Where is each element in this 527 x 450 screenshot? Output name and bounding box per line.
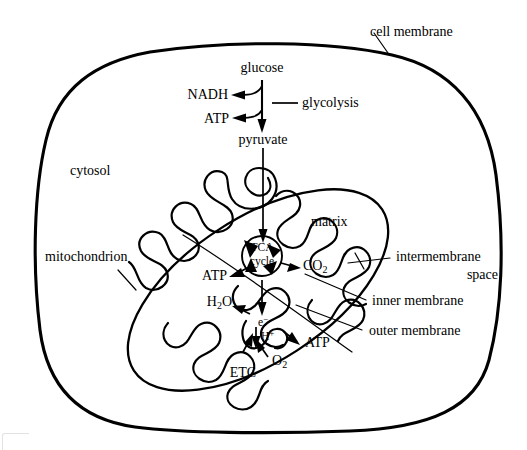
label-outer-membrane: outer membrane (369, 323, 460, 338)
label-cell-membrane: cell membrane (370, 24, 453, 39)
glycolysis-main-arrowhead (258, 119, 267, 133)
label-tca-line1: TCA (251, 241, 275, 253)
mitochondrion-outer-membrane (95, 149, 422, 431)
o2-subscript: 2 (282, 359, 287, 370)
diagram-canvas: cell membrane cytosol mitochondrion matr… (0, 0, 527, 450)
corner-scan-artifact (2, 433, 29, 450)
proton-superscript: + (269, 328, 274, 338)
label-tca-line2: cycle (250, 255, 274, 268)
label-glucose: glucose (241, 60, 284, 75)
nadh-branch-arrowhead (231, 91, 245, 100)
label-atp-glycolysis: ATP (204, 111, 229, 126)
label-inner-membrane: inner membrane (372, 293, 463, 308)
h2o-arrowhead (232, 305, 246, 314)
label-proton: H+ (261, 328, 274, 342)
label-matrix: matrix (311, 214, 348, 229)
intermembrane-space-leader (348, 258, 390, 263)
co2-base: CO (303, 258, 322, 273)
o2-base: O (272, 353, 282, 368)
tca-to-atp-arrowhead (229, 268, 245, 277)
label-intermembrane-space-line2: space (467, 267, 498, 282)
atp-branch-arrowhead (232, 114, 246, 123)
label-nadh: NADH (188, 87, 228, 102)
label-etc: ETC (230, 365, 256, 380)
label-atp-etc: ATP (305, 335, 330, 350)
label-intermembrane-space-line1: intermembrane (396, 249, 481, 264)
respiration-diagram: cell membrane cytosol mitochondrion matr… (0, 0, 527, 450)
co2-subscript: 2 (322, 264, 327, 275)
h2o-base-h: H (207, 294, 217, 309)
label-cytosol: cytosol (70, 163, 111, 178)
label-pyruvate: pyruvate (239, 132, 288, 147)
label-co2: CO2 (303, 258, 327, 275)
h2o-base-o: O (222, 294, 232, 309)
label-atp-tca: ATP (202, 268, 227, 283)
cell-membrane-outline (35, 44, 501, 433)
proton-base: H (261, 330, 269, 342)
mitochondrion-leader (118, 270, 136, 290)
label-electron: e− (258, 314, 268, 328)
electron-superscript: − (263, 314, 268, 324)
label-o2: O2 (272, 353, 287, 370)
label-h2o: H2O (207, 294, 232, 311)
label-mitochondrion: mitochondrion (45, 249, 127, 264)
label-glycolysis: glycolysis (302, 95, 359, 110)
